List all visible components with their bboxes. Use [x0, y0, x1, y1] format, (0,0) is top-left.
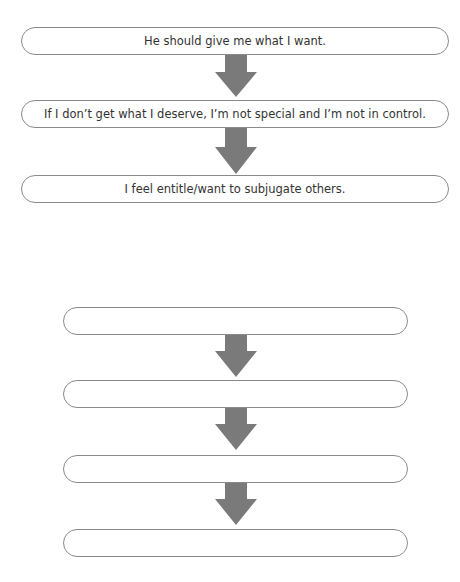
down-arrow-icon — [214, 128, 258, 172]
example-step-2: If I don’t get what I deserve, I’m not s… — [21, 100, 449, 128]
example-step-1: He should give me what I want. — [21, 27, 449, 55]
down-arrow-icon — [214, 335, 258, 379]
down-arrow-icon — [214, 408, 258, 452]
blank-step-4[interactable] — [63, 529, 408, 557]
blank-step-3[interactable] — [63, 455, 408, 483]
example-step-3: I feel entitle/want to subjugate others. — [21, 175, 449, 203]
step-text: He should give me what I want. — [144, 34, 326, 48]
step-text: I feel entitle/want to subjugate others. — [125, 182, 346, 196]
blank-step-1[interactable] — [63, 307, 408, 335]
down-arrow-icon — [214, 483, 258, 527]
step-text: If I don’t get what I deserve, I’m not s… — [44, 107, 426, 121]
blank-step-2[interactable] — [63, 380, 408, 408]
down-arrow-icon — [214, 55, 258, 99]
